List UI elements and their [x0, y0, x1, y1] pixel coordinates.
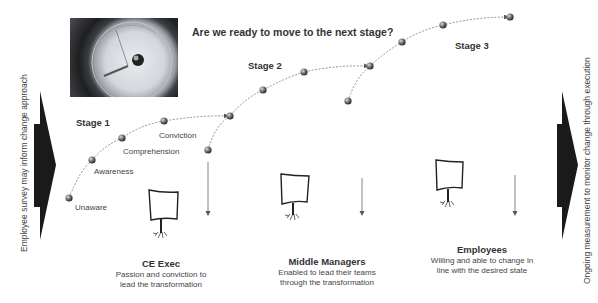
down-arrow-icon [360, 178, 365, 216]
group-ce-exec: CE Exec Passion and conviction to lead t… [100, 258, 222, 290]
sign-icon [281, 174, 309, 220]
group-employees: Employees Willing and able to change in … [418, 244, 546, 276]
step-awareness: Awareness [94, 167, 133, 176]
left-arrow-label: Employee survey may inform change approa… [19, 74, 29, 252]
stage-3-label: Stage 3 [455, 40, 489, 51]
stage-2-label: Stage 2 [248, 60, 282, 71]
group-desc-line1: Enabled to lead their teams [262, 268, 392, 278]
right-chevron-arrow-icon [557, 91, 578, 240]
sign-icon [436, 160, 463, 207]
group-desc-line2: through the transformation [262, 278, 392, 288]
group-desc-line2: line with the desired state [418, 266, 546, 276]
right-arrow-label: Ongoing measurement to monitor change th… [582, 57, 592, 284]
step-comprehension: Comprehension [123, 147, 179, 156]
step-unaware: Unaware [75, 203, 107, 212]
left-chevron-arrow-icon [34, 91, 56, 240]
group-heading: Middle Managers [262, 256, 392, 268]
step-conviction: Conviction [159, 131, 196, 140]
down-arrow-icon [206, 162, 211, 216]
group-heading: CE Exec [100, 258, 222, 270]
group-desc-line2: lead the transformation [100, 280, 222, 290]
down-arrow-icon [513, 175, 518, 216]
group-desc-line1: Passion and conviction to [100, 270, 222, 280]
stage-1-label: Stage 1 [76, 117, 110, 128]
group-desc-line1: Willing and able to change in [418, 256, 546, 266]
group-middle-managers: Middle Managers Enabled to lead their te… [262, 256, 392, 288]
group-heading: Employees [418, 244, 546, 256]
sign-icon [149, 190, 178, 238]
